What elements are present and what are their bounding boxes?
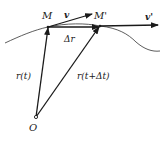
origin-point xyxy=(34,115,37,118)
velocity-vector-v-prime xyxy=(100,25,158,26)
velocity-vector-v xyxy=(48,14,92,27)
label-r-t-dt: r(t+Δt) xyxy=(77,71,110,81)
point-M-prime xyxy=(99,25,102,28)
label-M-prime: M' xyxy=(93,10,107,21)
label-v-prime: v' xyxy=(145,12,153,22)
label-M: M xyxy=(41,10,53,21)
trajectory-curve xyxy=(5,24,160,51)
label-r-t: r(t) xyxy=(16,71,31,81)
label-O: O xyxy=(29,122,37,133)
label-v: v xyxy=(64,10,70,20)
label-delta-r: Δr xyxy=(63,34,75,44)
position-vector-r-t xyxy=(36,28,48,117)
trajectory-diagram: M v M' v' Δr r(t) r(t+Δt) O xyxy=(0,0,168,141)
point-M xyxy=(47,26,50,29)
